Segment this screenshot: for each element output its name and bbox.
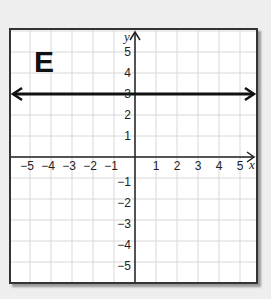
x-tick-label: −4 — [41, 159, 55, 173]
y-tick-label: 5 — [124, 45, 131, 59]
x-tick-label: −2 — [83, 159, 97, 173]
x-tick-label: 3 — [195, 159, 202, 173]
coordinate-plane: −5−4−3−2−11234554321−1−2−3−4−5xyE — [0, 0, 271, 299]
y-tick-label: −4 — [117, 238, 131, 252]
y-tick-label: 2 — [124, 108, 131, 122]
x-tick-label: 4 — [216, 159, 223, 173]
y-tick-label: −3 — [117, 217, 131, 231]
y-axis-label: y — [122, 29, 130, 44]
tick-labels: −5−4−3−2−11234554321−1−2−3−4−5xyE — [20, 29, 255, 273]
plot-line — [13, 88, 254, 100]
x-axis-label: x — [248, 157, 255, 172]
y-tick-label: −5 — [117, 259, 131, 273]
x-tick-label: −1 — [104, 159, 118, 173]
y-tick-label: 1 — [124, 129, 131, 143]
x-tick-label: 5 — [237, 159, 244, 173]
y-tick-label: −1 — [117, 175, 131, 189]
y-tick-label: −2 — [117, 196, 131, 210]
x-tick-label: −5 — [20, 159, 34, 173]
x-tick-label: −3 — [62, 159, 76, 173]
x-tick-label: 2 — [174, 159, 181, 173]
x-tick-label: 1 — [153, 159, 160, 173]
y-tick-label: 3 — [124, 87, 131, 101]
panel-label: E — [34, 45, 54, 78]
y-tick-label: 4 — [124, 66, 131, 80]
